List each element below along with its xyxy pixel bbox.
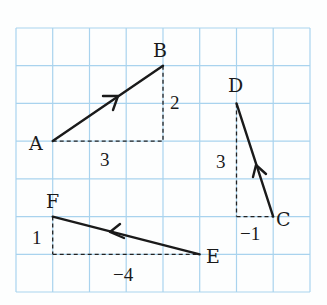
point-label-f: F [46,190,59,212]
point-label-e: E [206,245,220,267]
arrowhead-ef-icon [110,224,124,238]
point-label-a: A [28,132,43,154]
grid-canvas: A B C D E F 3 2 3 −1 1 −4 [0,0,327,305]
cd-horizontal-label: −1 [240,223,260,244]
ef-horizontal-label: −4 [113,264,134,285]
vector-cd [237,103,274,216]
point-label-b: B [153,39,167,61]
ef-vertical-label: 1 [32,227,42,248]
ab-horizontal-label: 3 [100,149,110,170]
ab-vertical-label: 2 [170,92,180,113]
point-label-d: D [228,74,243,96]
point-label-c: C [276,208,291,230]
cd-vertical-label: 3 [216,151,226,172]
vector-diagram: A B C D E F 3 2 3 −1 1 −4 [0,0,327,305]
component-labels: 3 2 3 −1 1 −4 [32,92,260,285]
